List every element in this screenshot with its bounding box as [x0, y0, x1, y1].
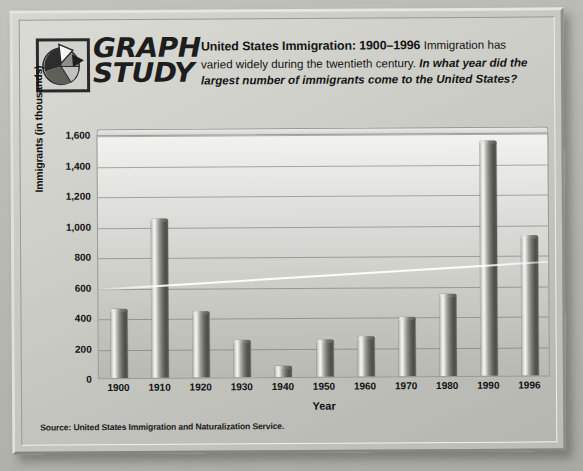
bar: [521, 236, 539, 376]
y-tick-label: 600: [75, 282, 92, 293]
logo-line-2: STUDY: [93, 60, 202, 85]
y-tick-label: 0: [86, 374, 92, 385]
bar: [316, 340, 333, 377]
y-axis-tick-labels: 02004006008001,0001,2001,4001,600: [50, 134, 91, 379]
y-axis-title: Immigrants (in thousands): [32, 42, 45, 192]
x-tick-label: 1970: [395, 380, 417, 391]
gridlines: [97, 133, 547, 136]
x-tick-label: 1930: [231, 381, 253, 392]
bar-cap: [357, 336, 374, 339]
x-tick-label: 1990: [477, 380, 499, 391]
bar: [439, 294, 457, 376]
bar-cap: [398, 318, 415, 321]
x-axis-tick-labels: 1900191019201930194019501960197019801990…: [98, 379, 550, 398]
bar-cap: [234, 341, 251, 344]
bar-cap: [316, 340, 333, 343]
bar-cap: [151, 219, 168, 222]
x-tick-label: 1980: [436, 380, 458, 391]
bar: [111, 309, 128, 378]
graph-study-logotype: GRAPH STUDY: [93, 36, 198, 97]
bar-cap: [439, 294, 456, 297]
bar-cap: [193, 312, 210, 315]
graph-study-page: GRAPH STUDY United States Immigration: 1…: [0, 0, 583, 471]
bar-cap: [111, 309, 128, 312]
plot-area: [96, 132, 549, 379]
bar: [151, 219, 169, 378]
page-title: United States Immigration: 1900–1996: [201, 38, 421, 53]
x-tick-label: 1910: [148, 382, 170, 393]
bar-chart: Immigrants (in thousands) 02004006008001…: [36, 113, 557, 416]
y-tick-label: 200: [75, 343, 92, 354]
poster-frame-inner: GRAPH STUDY United States Immigration: 1…: [19, 16, 558, 445]
y-tick-label: 1,600: [65, 130, 90, 141]
source-note: Source: United States Immigration and Na…: [40, 421, 284, 432]
poster-frame-outer: GRAPH STUDY United States Immigration: 1…: [10, 7, 567, 454]
bar-cap: [275, 366, 292, 369]
x-tick-label: 1940: [272, 381, 294, 392]
y-tick-label: 800: [74, 252, 91, 263]
bar: [234, 341, 251, 378]
bar: [193, 312, 210, 378]
bar: [398, 318, 415, 377]
bar-cap: [479, 141, 496, 144]
bar: [479, 141, 497, 376]
y-tick-label: 400: [75, 313, 92, 324]
bar: [275, 366, 292, 377]
x-axis-title: Year: [98, 398, 550, 413]
x-tick-label: 1960: [354, 380, 376, 391]
bar-cap: [521, 236, 538, 239]
x-tick-label: 1950: [313, 381, 335, 392]
y-tick-label: 1,000: [66, 221, 91, 232]
x-tick-label: 1920: [190, 381, 212, 392]
gridline: [97, 133, 547, 137]
y-tick-label: 1,200: [66, 191, 91, 202]
header: GRAPH STUDY United States Immigration: 1…: [36, 31, 542, 106]
y-tick-label: 1,400: [66, 160, 91, 171]
x-tick-label: 1996: [518, 379, 540, 390]
x-tick-label: 1900: [107, 382, 129, 393]
header-text: United States Immigration: 1900–1996 Imm…: [201, 37, 532, 90]
bar: [357, 336, 374, 377]
